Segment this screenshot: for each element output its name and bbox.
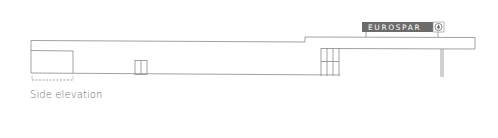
drawing-caption: Side elevation bbox=[30, 89, 103, 100]
canopy-column bbox=[441, 49, 443, 77]
left-annex bbox=[31, 51, 73, 81]
building-outline bbox=[31, 37, 475, 75]
glazed-section bbox=[321, 48, 340, 76]
spar-tree-logo-icon bbox=[433, 22, 444, 32]
side-door bbox=[135, 61, 147, 75]
sign-text: EUROSPAR bbox=[368, 23, 421, 32]
side-elevation-drawing: EUROSPAR bbox=[0, 0, 498, 138]
sign-posts bbox=[366, 32, 438, 37]
eurospar-sign: EUROSPAR bbox=[362, 22, 444, 32]
